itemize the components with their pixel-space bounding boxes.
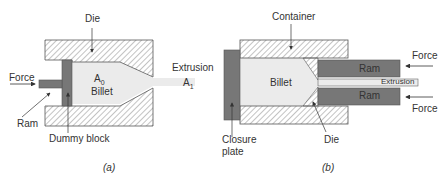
caption-b: (b)	[322, 163, 334, 173]
closure-plate-label-line2: plate	[222, 147, 244, 157]
ram-a	[39, 80, 62, 88]
extrusion-label-b: Extrusion	[381, 78, 414, 86]
billet-label-a: Billet	[91, 87, 113, 97]
container-bottom	[240, 106, 348, 124]
area-final-label: A1	[183, 78, 194, 90]
closure-plate-label-line1: Closure	[222, 135, 256, 145]
area-initial-label: A0	[94, 74, 105, 86]
force-label-a: Force	[9, 73, 35, 83]
force-top-label: Force	[412, 51, 438, 61]
die-label-b: Die	[324, 135, 339, 145]
ram-bottom-label: Ram	[359, 91, 380, 101]
container-label: Container	[272, 12, 315, 22]
container-top	[240, 40, 348, 58]
ram-top-label: Ram	[359, 64, 380, 74]
dummy-block-label: Dummy block	[49, 134, 110, 144]
extrusion-diagram: Die Force Ram Dummy block A0 Billet Extr…	[0, 0, 444, 181]
caption-a: (a)	[103, 163, 115, 173]
force-bottom-label: Force	[412, 104, 438, 114]
extrusion-label-a: Extrusion	[172, 63, 214, 73]
ram-label-a: Ram	[17, 119, 38, 129]
dummy-block	[62, 60, 72, 106]
die-label-a: Die	[85, 14, 100, 24]
billet-label-b: Billet	[270, 78, 292, 88]
